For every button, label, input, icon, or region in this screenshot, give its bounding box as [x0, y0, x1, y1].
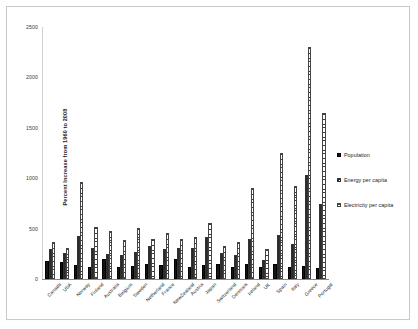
legend-swatch-icon [337, 178, 341, 182]
y-axis-tick-label: 2500 [26, 24, 38, 30]
bar [66, 248, 69, 279]
bar [123, 240, 126, 279]
bar-group [86, 27, 100, 279]
x-axis-label-cell: Canada [43, 281, 57, 321]
y-axis-tick-label: 0 [35, 276, 38, 282]
x-axis-label-cell: Belgium [114, 281, 128, 321]
bar [237, 242, 240, 279]
x-axis-line [42, 279, 329, 280]
x-axis-label-cell: Denmark [228, 281, 242, 321]
bar [208, 223, 211, 279]
x-axis-label-cell: NewZealand [171, 281, 185, 321]
legend-label: Energy per capita [344, 177, 387, 183]
bar-group [285, 27, 299, 279]
x-axis-label-cell: Portugal [314, 281, 328, 321]
bar-group [129, 27, 143, 279]
x-axis-label-cell: Australia [100, 281, 114, 321]
legend-label: Electricity per capita [344, 202, 393, 208]
x-axis-tick-label: Portugal [317, 282, 334, 299]
x-axis-label-cell: Finland [86, 281, 100, 321]
bar [322, 113, 325, 279]
x-axis-label-cell: Spain [271, 281, 285, 321]
y-axis-tick-label: 2000 [26, 74, 38, 80]
legend-entry: Electricity per capita [337, 202, 417, 208]
x-axis-label-cell: Netherland [143, 281, 157, 321]
bar [265, 249, 268, 279]
x-axis-label-cell: Greece [300, 281, 314, 321]
bar [251, 188, 254, 279]
x-axis-label-cell: Ireland [243, 281, 257, 321]
x-axis-label-cell: Italy [285, 281, 299, 321]
x-axis-label-cell: France [157, 281, 171, 321]
x-axis-label-cell: Switzerland [214, 281, 228, 321]
bar-group [114, 27, 128, 279]
legend-swatch-icon [337, 203, 341, 207]
x-axis-label-cell: USA [57, 281, 71, 321]
bar-group [72, 27, 86, 279]
bar-group [171, 27, 185, 279]
bar [223, 246, 226, 279]
x-axis-label-cell: Sweden [129, 281, 143, 321]
legend-entry: Energy per capita [337, 177, 417, 183]
bar [194, 237, 197, 279]
bar-group [100, 27, 114, 279]
chart-legend: PopulationEnergy per capitaElectricity p… [337, 152, 417, 227]
chart-frame: Percent Increase from 1960 to 2008 25002… [6, 6, 410, 320]
y-axis-tick-label: 500 [29, 226, 38, 232]
bar-group [257, 27, 271, 279]
x-axis-labels: CanadaUSANorwayFinlandAustraliaBelgiumSw… [43, 281, 328, 321]
bar [294, 186, 297, 279]
bar-group [57, 27, 71, 279]
bar [80, 182, 83, 279]
bar-group [243, 27, 257, 279]
bar [151, 239, 154, 279]
legend-swatch-icon [337, 153, 341, 157]
legend-label: Population [344, 152, 370, 158]
x-axis-label-cell: Austria [186, 281, 200, 321]
bar [109, 231, 112, 279]
bar-group [186, 27, 200, 279]
bar-groups [43, 27, 328, 279]
x-axis-tick-label: UK [262, 282, 270, 290]
legend-entry: Population [337, 152, 417, 158]
bar-group [314, 27, 328, 279]
bar [280, 153, 283, 279]
bar-group [200, 27, 214, 279]
y-axis-tick-label: 1000 [26, 175, 38, 181]
bar-group [43, 27, 57, 279]
bar [137, 228, 140, 279]
bar-group [271, 27, 285, 279]
x-axis-label-cell: Norway [72, 281, 86, 321]
bar-group [157, 27, 171, 279]
bar [94, 227, 97, 279]
x-axis-label-cell: UK [257, 281, 271, 321]
y-axis-tick-label: 1500 [26, 125, 38, 131]
bar-group [228, 27, 242, 279]
bar-group [300, 27, 314, 279]
bar [308, 47, 311, 279]
bar-group [143, 27, 157, 279]
bar [180, 239, 183, 279]
bar [52, 242, 55, 279]
bar [166, 233, 169, 279]
x-axis-label-cell: Japan [200, 281, 214, 321]
bar-group [214, 27, 228, 279]
